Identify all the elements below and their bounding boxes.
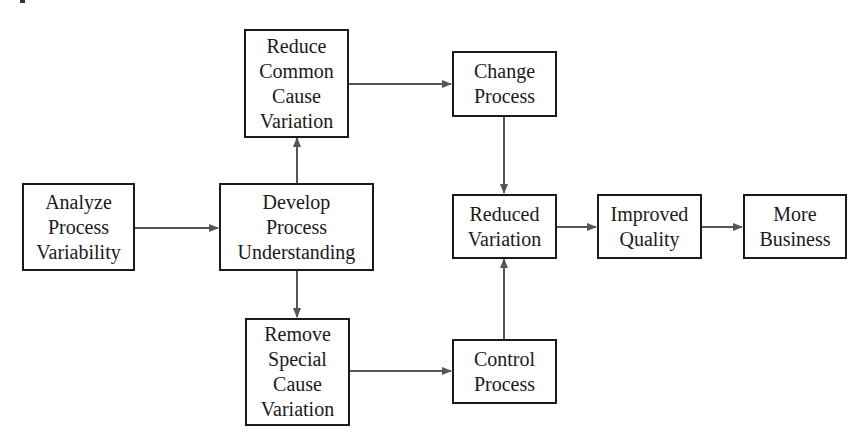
node-analyze-process-variability: Analyze Process Variability	[22, 183, 135, 271]
node-label-line: Process	[48, 215, 109, 240]
node-label-line: Reduce	[267, 34, 327, 59]
node-more-business: More Business	[743, 194, 847, 259]
node-label-line: Improved	[611, 202, 689, 227]
node-label-line: Remove	[264, 322, 331, 347]
process-improvement-flowchart: Analyze Process Variability Develop Proc…	[0, 0, 865, 446]
node-label-line: Process	[266, 215, 327, 240]
node-label-line: Variation	[261, 397, 334, 422]
node-label-line: More	[773, 202, 816, 227]
node-label-line: Cause	[272, 84, 321, 109]
node-label-line: Reduced	[470, 202, 540, 227]
node-label-line: Variability	[36, 240, 120, 265]
node-label-line: Variation	[468, 227, 541, 252]
node-remove-special-cause-variation: Remove Special Cause Variation	[245, 318, 350, 426]
node-label-line: Special	[268, 347, 327, 372]
node-label-line: Understanding	[238, 240, 356, 265]
node-improved-quality: Improved Quality	[597, 194, 702, 259]
node-control-process: Control Process	[452, 339, 557, 404]
node-label-line: Cause	[273, 372, 322, 397]
node-label-line: Business	[759, 227, 830, 252]
node-label-line: Develop	[263, 190, 331, 215]
node-develop-process-understanding: Develop Process Understanding	[219, 183, 374, 271]
node-label-line: Control	[474, 347, 535, 372]
node-label-line: Common	[259, 59, 333, 84]
node-label-line: Analyze	[45, 190, 112, 215]
node-label-line: Process	[474, 84, 535, 109]
node-label-line: Variation	[260, 109, 333, 134]
node-label-line: Change	[474, 59, 535, 84]
node-reduce-common-cause-variation: Reduce Common Cause Variation	[244, 29, 349, 138]
node-label-line: Quality	[620, 227, 680, 252]
node-change-process: Change Process	[452, 51, 557, 117]
node-label-line: Process	[474, 372, 535, 397]
node-reduced-variation: Reduced Variation	[452, 194, 557, 259]
